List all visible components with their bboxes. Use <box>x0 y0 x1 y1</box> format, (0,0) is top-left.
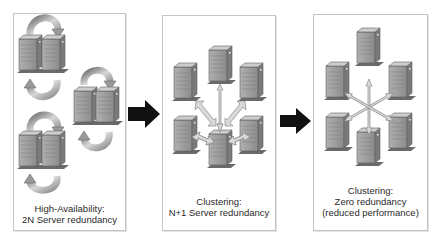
server-icon <box>238 63 267 101</box>
six-way-star-arrow-icon <box>343 79 394 135</box>
diagram-graphics <box>0 0 442 243</box>
server-icon <box>207 46 236 84</box>
right-arrow-icon <box>128 100 160 128</box>
server-icon <box>17 131 46 169</box>
standby-server-icon <box>207 130 236 168</box>
server-pair-3 <box>17 115 69 190</box>
server-icon <box>94 87 123 125</box>
redundancy-diagram: High-Availability: 2N Server redundancy … <box>0 0 442 243</box>
server-icon <box>40 35 69 73</box>
right-arrow-icon <box>280 108 311 134</box>
server-icon <box>40 131 69 169</box>
server-pair-2 <box>72 70 123 147</box>
server-pair-1 <box>17 18 69 97</box>
server-icon <box>172 63 201 101</box>
server-icon <box>355 28 384 66</box>
server-icon <box>17 35 46 73</box>
